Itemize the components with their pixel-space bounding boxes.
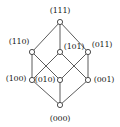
node-label-000: (000)	[50, 114, 71, 123]
lattice-node-110	[29, 49, 34, 54]
lattice-node-001	[85, 77, 90, 82]
lattice-edge-100-000	[34, 82, 58, 104]
lattice-edge-111-110	[34, 24, 58, 50]
node-label-110: (110)	[9, 37, 30, 46]
node-label-010: (010)	[35, 75, 56, 84]
node-label-101: (101)	[64, 42, 85, 51]
lattice-graph-canvas	[0, 0, 120, 127]
lattice-edge-001-000	[62, 82, 86, 104]
node-label-001: (001)	[94, 75, 115, 84]
lattice-diagram: (111)(110)(101)(011)(100)(010)(001)(000)	[0, 0, 120, 127]
node-label-100: (100)	[6, 74, 27, 83]
lattice-node-101	[57, 49, 62, 54]
lattice-node-000	[57, 102, 62, 107]
edge-layer	[32, 24, 88, 103]
lattice-node-111	[57, 19, 62, 24]
node-label-111: (111)	[50, 6, 71, 15]
lattice-node-010	[57, 77, 62, 82]
lattice-node-011	[85, 49, 90, 54]
node-label-011: (011)	[92, 40, 113, 49]
